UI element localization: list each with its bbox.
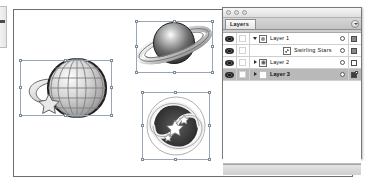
lock-icon (239, 71, 246, 78)
handle-se[interactable] (208, 158, 211, 161)
handle-s[interactable] (173, 71, 176, 74)
lock-toggle[interactable] (237, 69, 250, 80)
palette-empty-area[interactable] (223, 81, 361, 164)
palette-titlebar[interactable] (223, 8, 361, 18)
layer-thumbnail (259, 59, 267, 67)
handle-ne[interactable] (208, 91, 211, 94)
visibility-toggle[interactable] (223, 45, 237, 56)
table-row[interactable]: Swirling Stars (223, 45, 361, 57)
palette-footer-buttons[interactable] (223, 164, 361, 175)
table-row[interactable]: Layer 3 (223, 69, 361, 81)
layer-rows: Layer 1 Swir (223, 33, 361, 81)
eye-icon (225, 60, 234, 66)
eye-icon (225, 36, 234, 42)
target-toggle[interactable] (337, 45, 348, 56)
handle-n[interactable] (64, 59, 67, 62)
layer-thumbnail (259, 35, 267, 43)
toolbox-sliver[interactable] (0, 6, 7, 48)
layer-name-cell[interactable]: Swirling Stars (250, 45, 337, 56)
eye-icon (225, 48, 234, 54)
selection-indicator[interactable] (348, 57, 361, 68)
lock-toggle[interactable] (237, 45, 250, 56)
lock-toggle[interactable] (237, 33, 250, 44)
handle-s[interactable] (174, 158, 177, 161)
handle-n[interactable] (173, 20, 176, 23)
layer-name: Layer 3 (270, 69, 290, 80)
selection-indicator[interactable] (348, 45, 361, 56)
screenshot-root: Layers Layer 1 (0, 0, 368, 186)
lock-toggle[interactable] (237, 57, 250, 68)
layer-name-cell[interactable]: Layer 1 (250, 33, 337, 44)
selection-indicator[interactable] (348, 33, 361, 44)
handle-e[interactable] (110, 86, 113, 89)
layer-name-cell[interactable]: Layer 2 (250, 57, 337, 68)
handle-sw[interactable] (141, 158, 144, 161)
target-toggle[interactable] (337, 57, 348, 68)
layer-name: Layer 1 (270, 33, 289, 44)
handle-w[interactable] (135, 45, 138, 48)
visibility-toggle[interactable] (223, 69, 237, 80)
handle-w[interactable] (19, 86, 22, 89)
tool-swatch-icon (0, 20, 5, 23)
chevron-right-icon[interactable] (252, 57, 259, 68)
handle-nw[interactable] (135, 20, 138, 23)
lock-icon (239, 59, 246, 66)
selection-box-galaxy[interactable] (142, 92, 210, 160)
handle-nw[interactable] (141, 91, 144, 94)
chevron-right-icon[interactable] (252, 69, 259, 80)
zoom-dot-icon[interactable] (242, 10, 247, 15)
handle-ne[interactable] (211, 20, 214, 23)
handle-n[interactable] (174, 91, 177, 94)
selection-swatch-icon (351, 36, 357, 42)
target-toggle[interactable] (337, 33, 348, 44)
handle-se[interactable] (211, 71, 214, 74)
target-circle-icon (340, 60, 345, 65)
layer-name: Swirling Stars (294, 45, 332, 56)
target-toggle[interactable] (337, 69, 348, 80)
target-circle-icon (340, 36, 345, 41)
layers-palette[interactable]: Layers Layer 1 (222, 7, 362, 159)
handle-e[interactable] (208, 124, 211, 127)
selection-swatch-icon (351, 48, 357, 54)
minimize-dot-icon[interactable] (234, 10, 239, 15)
handle-sw[interactable] (19, 114, 22, 117)
tab-layers[interactable]: Layers (225, 19, 256, 29)
handle-ne[interactable] (110, 59, 113, 62)
selection-indicator[interactable] (348, 69, 361, 80)
handle-sw[interactable] (135, 71, 138, 74)
target-circle-icon (340, 72, 345, 77)
table-row[interactable]: Layer 1 (223, 33, 361, 45)
layer-name: Layer 2 (270, 57, 289, 68)
panel-menu-icon[interactable] (351, 20, 359, 28)
lock-icon (239, 35, 246, 42)
handle-nw[interactable] (19, 59, 22, 62)
handle-se[interactable] (110, 114, 113, 117)
handle-s[interactable] (64, 114, 67, 117)
chevron-down-icon[interactable] (252, 33, 259, 44)
layer-thumbnail (283, 47, 291, 55)
close-dot-icon[interactable] (226, 10, 231, 15)
eye-icon (225, 72, 234, 78)
selection-swatch-icon (351, 72, 357, 78)
layer-name-cell[interactable]: Layer 3 (250, 69, 337, 80)
handle-e[interactable] (211, 45, 214, 48)
table-row[interactable]: Layer 2 (223, 57, 361, 69)
visibility-toggle[interactable] (223, 57, 237, 68)
selection-box-globe[interactable] (20, 60, 112, 116)
layer-thumbnail (259, 71, 267, 79)
chevron-placeholder-icon (276, 45, 283, 56)
selection-box-planet[interactable] (136, 21, 213, 73)
handle-w[interactable] (141, 124, 144, 127)
target-circle-icon (340, 48, 345, 53)
lock-icon (239, 47, 246, 54)
visibility-toggle[interactable] (223, 33, 237, 44)
selection-swatch-icon (351, 60, 357, 66)
palette-tab-row: Layers (223, 18, 361, 30)
